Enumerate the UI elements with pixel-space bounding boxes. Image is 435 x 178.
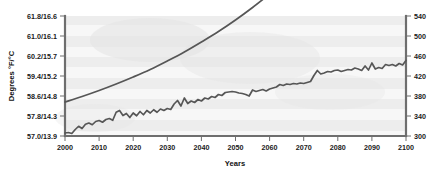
right-tick-label: 420 [414, 72, 426, 81]
left-tick-label: 59.4/15.2 [27, 72, 57, 81]
x-tick-label: 2040 [193, 143, 209, 152]
right-tick-label: 460 [414, 52, 426, 61]
right-tick-label: 380 [414, 92, 426, 101]
right-tick-label: 500 [414, 32, 426, 41]
y-axis-title: Degrees °F/°C [7, 50, 16, 101]
left-tick-label: 58.6/14.8 [27, 92, 57, 101]
right-tick-label: 340 [414, 112, 426, 121]
right-tick-label: 540 [414, 12, 426, 21]
x-tick-label: 2070 [296, 143, 312, 152]
chart-figure: 61.8/16.6 61.0/16.1 60.2/15.7 59.4/15.2 … [0, 0, 435, 178]
x-tick-label: 2100 [398, 143, 414, 152]
x-axis-title: Years [225, 159, 245, 168]
right-tick-label: 300 [414, 132, 426, 141]
left-tick-label: 57.0/13.9 [27, 132, 57, 141]
x-tick-labels: 2000 2010 2020 2030 2040 2050 2060 2070 … [57, 143, 414, 152]
x-tick-label: 2030 [159, 143, 175, 152]
x-tick-label: 2010 [91, 143, 107, 152]
climate-line-chart: 61.8/16.6 61.0/16.1 60.2/15.7 59.4/15.2 … [0, 0, 435, 178]
x-tick-label: 2050 [228, 143, 244, 152]
x-tick-label: 2060 [262, 143, 278, 152]
left-tick-label: 60.2/15.7 [27, 52, 57, 61]
left-tick-label: 61.8/16.6 [27, 12, 57, 21]
x-tick-label: 2000 [57, 143, 73, 152]
x-tick-label: 2080 [330, 143, 346, 152]
right-tick-labels: 540 500 460 420 380 340 300 [414, 12, 426, 141]
left-tick-labels: 61.8/16.6 61.0/16.1 60.2/15.7 59.4/15.2 … [27, 12, 57, 141]
x-tick-label: 2090 [364, 143, 380, 152]
x-tick-label: 2020 [125, 143, 141, 152]
plot-background [55, 16, 406, 136]
left-tick-label: 57.8/14.3 [27, 112, 57, 121]
left-tick-label: 61.0/16.1 [27, 32, 57, 41]
